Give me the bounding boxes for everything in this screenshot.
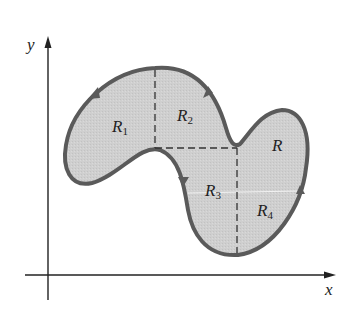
x-axis-label: x: [325, 281, 333, 298]
subregion-label-r2: R2: [177, 107, 193, 126]
diagram-graphic: [0, 0, 361, 316]
y-axis: [45, 36, 52, 300]
subregion-label-r3: R3: [205, 182, 221, 201]
region-diagram: y x R1 R2 R3 R4 R: [0, 0, 361, 316]
x-axis-arrow-icon: [324, 272, 336, 279]
y-axis-arrow-icon: [45, 36, 52, 48]
region-label: R: [272, 137, 282, 154]
orientation-arrow-icon: [88, 87, 100, 99]
subregion-label-r4: R4: [257, 202, 273, 221]
subregion-label-r1: R1: [112, 118, 128, 137]
region-boundary: [65, 68, 308, 255]
x-axis: [25, 272, 336, 279]
y-axis-label: y: [27, 36, 35, 53]
